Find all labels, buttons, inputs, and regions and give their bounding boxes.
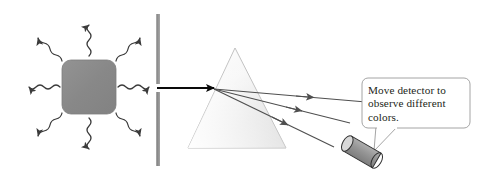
barrier-top-segment <box>156 14 160 84</box>
emission-ray-down-left <box>38 113 62 136</box>
physics-dispersion-figure: Move detector to observe different color… <box>0 0 477 174</box>
callout-text: Move detector to observe different color… <box>368 84 464 124</box>
emission-ray-down <box>87 118 91 149</box>
barrier-bottom-segment <box>156 92 160 166</box>
emission-ray-left <box>29 85 60 89</box>
prism-highlight <box>188 48 286 148</box>
callout-line-1: Move detector to <box>368 84 464 97</box>
light-source-square <box>62 60 116 114</box>
ray-3-arrow <box>272 117 288 125</box>
ray-1-arrow <box>296 96 314 98</box>
emission-ray-up-right <box>116 38 140 61</box>
emission-ray-down-right <box>116 113 140 136</box>
callout-line-2: observe different <box>368 97 464 110</box>
callout-tail <box>374 126 398 151</box>
ray-2-arrow <box>286 107 302 111</box>
callout-line-3: colors. <box>368 111 464 124</box>
emission-ray-right <box>118 85 149 89</box>
refracted-ray-arrowheads <box>272 96 314 125</box>
emission-ray-up <box>87 25 91 56</box>
emission-ray-up-left <box>38 38 62 61</box>
